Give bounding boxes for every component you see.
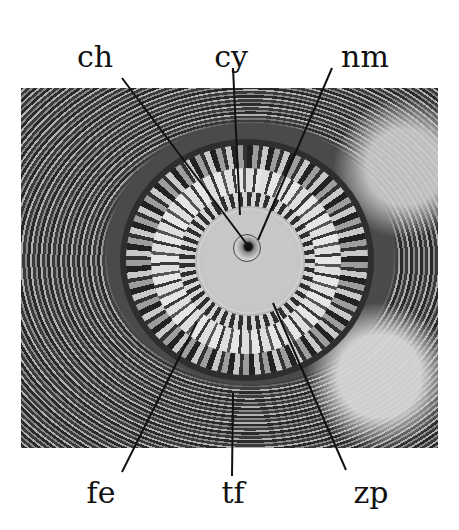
label-tf: tf: [221, 478, 244, 508]
micrograph-figure: ch cy nm fe tf zp: [0, 0, 459, 530]
leader-line-cy: [233, 68, 240, 215]
leader-line-nm: [258, 68, 332, 240]
leader-line-tf: [232, 393, 233, 476]
leader-line-ch: [122, 78, 249, 247]
label-nm: nm: [341, 42, 389, 72]
label-fe: fe: [87, 478, 116, 508]
leader-lines: [0, 0, 459, 530]
label-ch: ch: [77, 42, 113, 72]
label-zp: zp: [353, 478, 388, 508]
label-cy: cy: [214, 42, 248, 72]
leader-line-zp: [273, 303, 346, 470]
leader-line-fe: [122, 322, 197, 472]
